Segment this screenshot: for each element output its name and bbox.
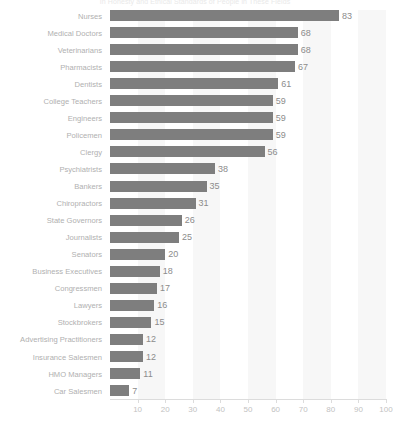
category-label: Clergy: [80, 146, 102, 157]
x-tick-label: 30: [188, 405, 197, 415]
bar: [110, 249, 165, 260]
bar: [110, 351, 143, 362]
x-tick-mark: [138, 399, 139, 403]
bar-value-label: 67: [298, 61, 308, 72]
category-label: Bankers: [74, 181, 102, 192]
x-tick-mark: [331, 399, 332, 403]
x-tick-label: 10: [133, 405, 142, 415]
bar-value-label: 11: [143, 368, 152, 379]
category-label: HMO Managers: [48, 368, 102, 379]
bar-value-label: 68: [301, 44, 311, 55]
x-tick-label: 50: [244, 405, 253, 415]
bar: [110, 368, 140, 379]
category-label: Senators: [72, 249, 102, 260]
bar: [110, 198, 196, 209]
x-tick-label: 40: [216, 405, 225, 415]
bar-value-label: 68: [301, 27, 311, 38]
bar-row: Clergy56: [110, 146, 386, 157]
plot-area: Nurses83Medical Doctors68Veterinarians68…: [110, 10, 386, 399]
x-tick-label: 20: [161, 405, 170, 415]
bar-row: HMO Managers11: [110, 368, 386, 379]
category-label: Medical Doctors: [48, 27, 102, 38]
bar: [110, 334, 143, 345]
category-label: Policemen: [67, 129, 102, 140]
x-tick-label: 100: [379, 405, 392, 415]
bar: [110, 283, 157, 294]
bar: [110, 44, 298, 55]
bar-row: Journalists25: [110, 232, 386, 243]
category-label: Engineers: [68, 112, 102, 123]
bar-row: Advertising Practitioners12: [110, 334, 386, 345]
chart-title: In Honesty and Ethical Standards of Peop…: [0, 0, 390, 7]
bar: [110, 10, 339, 21]
bar-value-label: 26: [185, 215, 195, 226]
x-tick-mark: [248, 399, 249, 403]
bar-value-label: 35: [210, 181, 220, 192]
bar-value-label: 20: [168, 249, 178, 260]
bar-value-label: 59: [276, 95, 286, 106]
x-tick-mark: [276, 399, 277, 403]
bar-row: Car Salesmen7: [110, 385, 386, 396]
bar-value-label: 12: [146, 351, 156, 362]
bar-row: Senators20: [110, 249, 386, 260]
x-tick-mark: [303, 399, 304, 403]
bar: [110, 129, 273, 140]
category-label: Insurance Salesmen: [33, 351, 102, 362]
x-tick-label: 80: [326, 405, 335, 415]
bar: [110, 266, 160, 277]
bar-value-label: 38: [218, 163, 228, 174]
category-label: Veterinarians: [58, 44, 102, 55]
bar-row: Veterinarians68: [110, 44, 386, 55]
bar: [110, 215, 182, 226]
x-tick-mark: [386, 399, 387, 403]
category-label: Journalists: [66, 232, 102, 243]
bar: [110, 300, 154, 311]
bar-value-label: 7: [132, 385, 137, 396]
bar-value-label: 12: [146, 334, 156, 345]
x-tick-mark: [358, 399, 359, 403]
bar-row: Medical Doctors68: [110, 27, 386, 38]
bar-value-label: 56: [268, 146, 278, 157]
bar-row: College Teachers59: [110, 95, 386, 106]
bar-row: Insurance Salesmen12: [110, 351, 386, 362]
x-tick-label: 70: [299, 405, 308, 415]
bar-row: Chiropractors31: [110, 198, 386, 209]
category-label: Pharmacists: [60, 61, 102, 72]
bar-row: Dentists61: [110, 78, 386, 89]
category-label: Psychiatrists: [59, 163, 102, 174]
bar-row: Business Executives18: [110, 266, 386, 277]
x-tick-mark: [220, 399, 221, 403]
bar-value-label: 16: [157, 300, 167, 311]
category-label: Chiropractors: [56, 198, 102, 209]
category-label: Congressmen: [55, 283, 102, 294]
x-tick-label: 60: [271, 405, 280, 415]
category-label: Dentists: [75, 78, 102, 89]
bar: [110, 163, 215, 174]
category-label: Car Salesmen: [54, 385, 102, 396]
bar-value-label: 59: [276, 129, 286, 140]
bar: [110, 27, 298, 38]
category-label: Business Executives: [32, 266, 102, 277]
bar: [110, 78, 278, 89]
bar-row: Nurses83: [110, 10, 386, 21]
bar-row: Pharmacists67: [110, 61, 386, 72]
bar-value-label: 59: [276, 112, 286, 123]
x-tick-mark: [193, 399, 194, 403]
bar-row: Lawyers16: [110, 300, 386, 311]
bar-value-label: 61: [281, 78, 291, 89]
bar: [110, 61, 295, 72]
bar: [110, 385, 129, 396]
bar-value-label: 83: [342, 10, 352, 21]
bar-row: State Governors26: [110, 215, 386, 226]
bar-value-label: 17: [160, 283, 170, 294]
bar: [110, 181, 207, 192]
category-label: State Governors: [47, 215, 102, 226]
bar-row: Congressmen17: [110, 283, 386, 294]
bar: [110, 112, 273, 123]
bar-row: Engineers59: [110, 112, 386, 123]
bar: [110, 146, 265, 157]
category-label: Stockbrokers: [58, 317, 102, 328]
category-label: Nurses: [78, 10, 102, 21]
bar: [110, 95, 273, 106]
